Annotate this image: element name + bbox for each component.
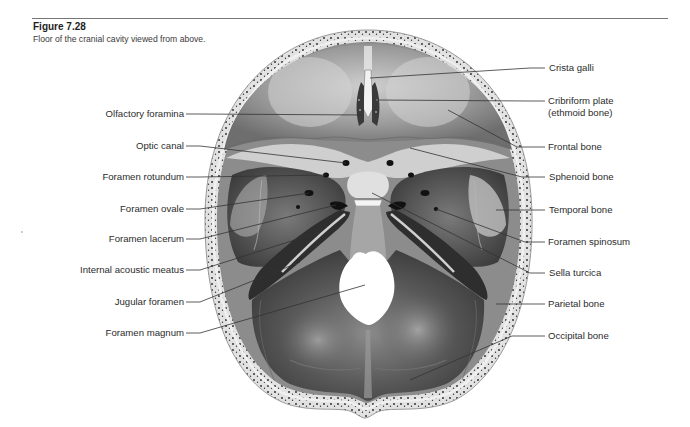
label-ethmoid-bone: (ethmoid bone) (548, 107, 613, 119)
label-optic-canal: Optic canal (136, 140, 184, 152)
crista-galli (363, 70, 373, 118)
label-foramen-lacerum: Foramen lacerum (109, 233, 184, 245)
label-foramen-ovale: Foramen ovale (120, 203, 184, 215)
cranial-floor (217, 42, 520, 403)
label-sphenoid-bone: Sphenoid bone (549, 171, 614, 183)
label-foramen-rotundum: Foramen rotundum (102, 171, 184, 183)
label-occipital-bone: Occipital bone (548, 330, 609, 342)
label-foramen-magnum: Foramen magnum (106, 327, 184, 339)
label-foramen-spinosum: Foramen spinosum (548, 236, 630, 248)
label-parietal-bone: Parietal bone (548, 298, 605, 310)
label-internal-acoustic-meatus: Internal acoustic meatus (80, 264, 184, 276)
label-olfactory-foramina: Olfactory foramina (106, 108, 184, 120)
label-cribriform-plate: Cribriform plate (548, 95, 614, 107)
label-crista-galli: Crista galli (549, 62, 594, 74)
label-frontal-bone: Frontal bone (548, 141, 602, 153)
label-temporal-bone: Temporal bone (549, 204, 612, 216)
label-jugular-foramen: Jugular foramen (115, 296, 184, 308)
label-sella-turcica: Sella turcica (549, 267, 601, 279)
